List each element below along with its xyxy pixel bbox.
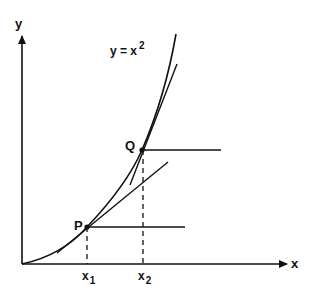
tick-label-x2: x2 <box>138 269 152 286</box>
tangent-at-q <box>130 64 177 185</box>
x1-base: x <box>82 269 89 283</box>
point-p <box>84 224 89 229</box>
x2-base: x <box>138 269 145 283</box>
tick-label-x1: x1 <box>82 269 96 286</box>
x1-sub: 1 <box>90 275 96 286</box>
x2-sub: 2 <box>146 275 152 286</box>
equation-base: y = x <box>110 44 137 58</box>
parabola-diagram: y x y = x2 Q P x1 x2 <box>0 0 313 293</box>
point-q-label: Q <box>125 138 135 153</box>
point-q <box>139 147 144 152</box>
tangent-at-p <box>57 162 168 253</box>
point-p-label: P <box>74 218 83 233</box>
y-axis-label: y <box>15 16 23 31</box>
equation-label: y = x2 <box>110 40 145 58</box>
x-axis-label: x <box>291 256 299 271</box>
equation-exponent: 2 <box>139 40 145 51</box>
parabola-curve <box>22 34 176 264</box>
